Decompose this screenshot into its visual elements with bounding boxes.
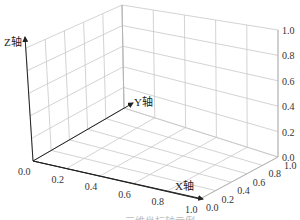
z-axis-arrow: [25, 37, 33, 161]
right-wall-grid-line: [216, 20, 217, 137]
floor-grid-line: [133, 137, 216, 183]
z-tick-label: 0.6: [282, 76, 295, 87]
x-axis-label: X轴: [175, 179, 194, 192]
z-tick-label: 0.4: [282, 101, 295, 112]
left-wall-grid-line: [30, 67, 123, 116]
left-wall-grid-line: [84, 22, 88, 129]
3d-axes-chart: 0.00.20.40.60.81.00.00.20.40.60.81.00.00…: [0, 0, 300, 220]
left-wall-grid-line: [32, 87, 124, 138]
z-tick-label: 0.0: [282, 152, 295, 163]
y-axis-label: Y轴: [134, 95, 153, 108]
floor-grid-line: [100, 128, 186, 177]
right-wall-grid-line: [123, 46, 278, 81]
floor-grid-line: [88, 129, 247, 174]
figure-caption: ……三维坐标轴示例: [0, 213, 300, 220]
x-tick-label: 0.6: [118, 189, 131, 200]
left-wall-grid-line: [103, 14, 106, 119]
floor-grid-line: [106, 119, 263, 166]
right-wall-grid-line: [124, 87, 278, 131]
back-edge: [122, 5, 124, 108]
z-tick-label: 1.0: [282, 25, 295, 36]
right-wall-grid-line: [153, 10, 155, 118]
y-tick-label: 0.6: [253, 177, 265, 188]
x-tick-label: 0.4: [85, 181, 98, 192]
x-tick-label: 0.8: [152, 196, 165, 207]
y-tick-label: 0.8: [268, 168, 281, 179]
z-axis-label: Z轴: [4, 35, 22, 48]
right-wall-grid-line: [122, 5, 278, 30]
left-wall-grid-line: [26, 5, 122, 48]
floor-grid-line: [66, 118, 154, 169]
x-tick-label: 0.2: [51, 174, 64, 185]
z-tick-label: 0.8: [282, 50, 295, 61]
right-wall-grid-line: [184, 15, 185, 128]
left-wall-grid-line: [27, 26, 122, 71]
left-wall-grid-line: [29, 46, 123, 93]
y-tick-label: 0.2: [222, 194, 235, 205]
z-tick-label: 0.2: [282, 127, 295, 138]
left-wall-grid-line: [64, 31, 69, 140]
y-tick-label: 0.0: [206, 202, 219, 213]
y-tick-label: 0.4: [237, 185, 250, 196]
left-wall-grid-line: [45, 39, 51, 150]
x-tick-label: 0.0: [18, 166, 31, 177]
